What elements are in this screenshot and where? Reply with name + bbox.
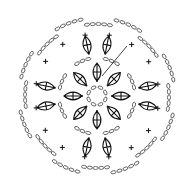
chain-stitch-icon [171,77,175,83]
chain-stitch-icon [69,167,75,172]
chain-stitch-icon [96,22,101,25]
chain-stitch-icon [104,165,110,169]
chain-stitch-icon [90,22,95,25]
cluster-base-dot-icon [88,137,90,139]
cluster-base-dot-icon [138,103,140,105]
chain-stitch-icon [97,102,103,107]
chain-stitch-icon [166,83,170,89]
single-crochet-icon [60,42,65,47]
chain-stitch-icon [19,74,23,80]
cluster-base-dot-icon [85,106,87,108]
chain-stitch-icon [134,161,140,166]
chain-stitch-icon [58,102,62,108]
single-crochet-icon [146,128,151,133]
chain-stitch-icon [91,85,97,90]
chain-stitch-icon [114,61,120,66]
single-crochet-icon [43,128,48,133]
cluster-base-dot-icon [107,106,109,108]
chain-stitch-icon [103,131,109,135]
chain-stitch-icon [132,84,136,90]
chain-stitch-icon [103,57,109,61]
chain-stitch-icon [103,90,108,96]
chain-stitch-icon [135,152,141,157]
chain-stitch-icon [81,165,87,169]
chain-stitch-icon [26,56,31,62]
chain-stitch-icon [101,23,106,27]
treble-cluster-icon [74,73,87,86]
chain-stitch-icon [66,21,72,26]
cluster-base-dot-icon [96,80,98,82]
chain-stitch-icon [125,22,131,27]
single-crochet-icon [60,145,65,150]
chain-stitch-icon [60,23,66,28]
chain-stitch-icon [78,18,84,22]
chart-canvas [0,0,194,193]
chain-stitch-icon [74,61,80,66]
chain-stitch-icon [166,106,170,112]
crochet-diagram: Crochet granny motif chart [0,0,194,193]
chain-stitch-icon [130,78,135,84]
treble-cluster-icon [37,102,55,110]
chain-stitch-icon [85,57,91,61]
treble-cluster-icon [108,73,121,86]
chain-stitch-icon [167,100,171,105]
chain-stitch-icon [109,129,115,134]
chain-stitch-icon [132,102,136,108]
chain-stitch-icon [163,130,168,136]
treble-cluster-icon [83,36,91,54]
chain-stitch-icon [167,89,170,94]
chain-stitch-icon [114,18,120,22]
treble-cluster-icon [112,92,130,100]
chain-stitch-icon [75,169,81,173]
cluster-base-dot-icon [104,53,106,55]
chain-stitch-icon [72,19,78,23]
cluster-base-dot-icon [104,137,106,139]
cluster-base-dot-icon [96,110,98,112]
chain-stitch-icon [170,113,174,119]
cluster-base-dot-icon [81,95,83,97]
chain-stitch-icon [63,165,69,170]
chain-stitch-icon [85,131,91,135]
chain-stitch-icon [86,96,91,102]
treble-cluster-icon [139,82,157,90]
chain-stitch-icon [127,113,132,119]
chain-stitch-icon [91,102,97,107]
treble-cluster-icon [103,36,111,54]
single-crochet-icon [129,42,134,47]
cluster-base-dot-icon [54,87,56,89]
chain-stitch-icon [35,134,40,140]
treble-cluster-icon [74,107,87,120]
chain-stitch-icon [54,26,60,31]
chain-stitch-icon [52,159,58,164]
chain-stitch-icon [60,108,65,114]
chain-stitch-icon [24,103,28,109]
chain-stitch-icon [99,166,104,169]
chain-stitch-icon [111,170,117,174]
treble-cluster-icon [93,111,101,129]
chain-stitch-icon [84,23,90,27]
chain-stitch-icon [79,129,85,134]
chain-stitch-icon [120,20,126,25]
chain-stitch-icon [24,86,28,91]
single-crochet-icon [129,145,134,150]
chain-stitch-icon [23,62,28,68]
chain-stitch-icon [153,52,158,58]
chain-stitch-icon [29,51,34,57]
chain-stitch-icon [23,92,26,97]
treble-cluster-icon [83,138,91,156]
treble-cluster-icon [64,92,82,100]
chain-stitch-icon [60,78,65,84]
chain-stitch-icon [19,110,23,116]
chain-stitch-icon [136,28,142,33]
chain-stitch-icon [57,162,63,167]
chain-stitch-icon [62,113,67,119]
single-crochet-icon [43,59,48,64]
chain-stitch-icon [103,96,108,102]
chain-stitch-icon [107,23,113,27]
cluster-base-dot-icon [138,87,140,89]
chain-stitch-icon [160,135,165,141]
chain-stitch-icon [114,126,120,131]
chain-stitch-icon [93,166,98,169]
chain-stitch-icon [165,59,170,65]
chain-stitch-icon [131,25,137,30]
